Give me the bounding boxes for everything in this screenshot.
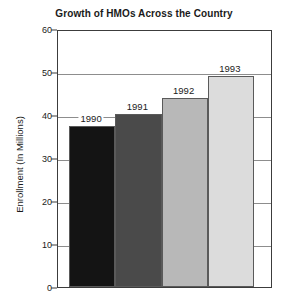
y-axis-title: Enrollment (In Millions) (14, 60, 25, 270)
y-axis-tick-label: 0 (28, 283, 52, 293)
bar-1991[interactable] (115, 114, 161, 287)
bar-label-1992: 1992 (171, 85, 196, 96)
y-axis-tick-label: 10 (28, 240, 52, 250)
y-axis-tick-label: 60 (28, 25, 52, 35)
y-axis-tick-label: 30 (28, 154, 52, 164)
chart-title: Growth of HMOs Across the Country (0, 8, 288, 19)
chart-container: Growth of HMOs Across the Country Enroll… (0, 0, 288, 308)
y-axis-tick-label: 40 (28, 111, 52, 121)
bar-label-1991: 1991 (125, 101, 150, 112)
y-axis-tick-label: 50 (28, 68, 52, 78)
bar-1990[interactable] (69, 126, 115, 287)
y-axis-tick-label: 20 (28, 197, 52, 207)
bar-label-1993: 1993 (217, 63, 242, 74)
bar-1992[interactable] (162, 98, 208, 287)
bar-1993[interactable] (208, 76, 254, 287)
bar-label-1990: 1990 (79, 113, 104, 124)
